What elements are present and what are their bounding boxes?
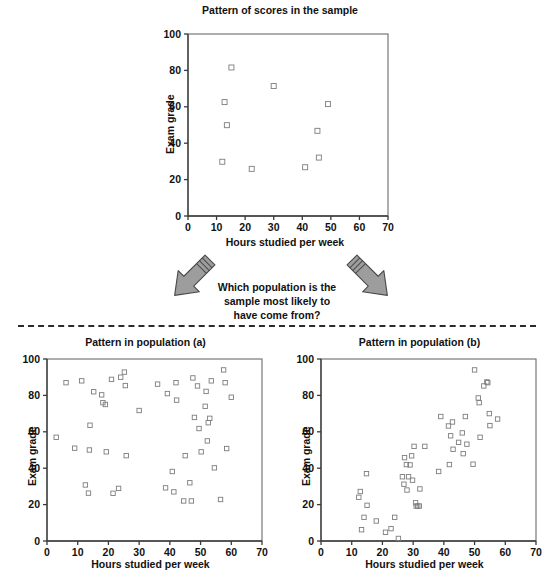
x-tick-label: 10 <box>346 546 358 558</box>
x-tick-label: 40 <box>296 221 308 233</box>
y-tick-label: 80 <box>169 64 181 76</box>
statistics-figure: Pattern of scores in the sample 02040608… <box>0 0 553 585</box>
y-tick-label: 100 <box>22 353 40 365</box>
scatter-plot-population-b: 020406080100010203040506070 <box>292 351 547 576</box>
x-tick-label: 30 <box>268 221 280 233</box>
x-tick-label: 40 <box>438 546 450 558</box>
y-tick-label: 0 <box>34 535 40 547</box>
x-tick-label: 0 <box>318 546 324 558</box>
y-axis-label-population-a: Exam grade <box>26 426 38 486</box>
x-axis-label-sample: Hours studied per week <box>175 236 395 248</box>
y-tick-label: 0 <box>175 210 181 222</box>
y-tick-label: 20 <box>169 173 181 185</box>
question-prompt: Which population is the sample most like… <box>207 280 347 322</box>
x-tick-label: 0 <box>185 221 191 233</box>
scatter-plot-sample: 020406080100010203040506070 <box>155 20 405 255</box>
plot-frame <box>188 34 388 216</box>
x-tick-label: 30 <box>133 546 145 558</box>
x-tick-label: 50 <box>195 546 207 558</box>
x-tick-label: 20 <box>377 546 389 558</box>
chart-title-sample: Pattern of scores in the sample <box>155 4 405 16</box>
y-axis-label-population-b: Exam grade <box>300 426 312 486</box>
chart-title-population-b: Pattern in population (b) <box>292 336 547 348</box>
x-tick-label: 60 <box>354 221 366 233</box>
x-tick-label: 0 <box>44 546 50 558</box>
arrow-right-icon <box>341 249 398 306</box>
y-tick-label: 100 <box>296 353 314 365</box>
x-tick-label: 20 <box>239 221 251 233</box>
x-tick-label: 60 <box>499 546 511 558</box>
chart-panel-sample: Pattern of scores in the sample 02040608… <box>155 4 405 254</box>
x-tick-label: 70 <box>256 546 268 558</box>
x-tick-label: 10 <box>72 546 84 558</box>
y-tick-label: 80 <box>302 389 314 401</box>
chart-panel-population-a: Pattern in population (a) 02040608010001… <box>18 336 278 581</box>
x-tick-label: 50 <box>469 546 481 558</box>
section-divider <box>18 325 536 327</box>
y-axis-label-sample: Exam grade <box>164 94 176 154</box>
x-tick-label: 70 <box>530 546 542 558</box>
x-tick-label: 30 <box>407 546 419 558</box>
y-tick-label: 0 <box>308 535 314 547</box>
chart-panel-population-b: Pattern in population (b) 02040608010001… <box>292 336 552 581</box>
y-tick-label: 20 <box>302 498 314 510</box>
x-axis-label-population-a: Hours studied per week <box>38 558 263 570</box>
plot-frame <box>321 359 536 541</box>
x-tick-label: 60 <box>225 546 237 558</box>
x-tick-label: 40 <box>164 546 176 558</box>
y-tick-label: 20 <box>28 498 40 510</box>
scatter-plot-population-a: 020406080100010203040506070 <box>18 351 273 576</box>
plot-frame <box>47 359 262 541</box>
x-tick-label: 10 <box>211 221 223 233</box>
x-tick-label: 70 <box>382 221 394 233</box>
y-tick-label: 100 <box>163 28 181 40</box>
x-axis-label-population-b: Hours studied per week <box>312 558 537 570</box>
y-tick-label: 80 <box>28 389 40 401</box>
chart-title-population-a: Pattern in population (a) <box>18 336 273 348</box>
x-tick-label: 50 <box>325 221 337 233</box>
x-tick-label: 20 <box>103 546 115 558</box>
